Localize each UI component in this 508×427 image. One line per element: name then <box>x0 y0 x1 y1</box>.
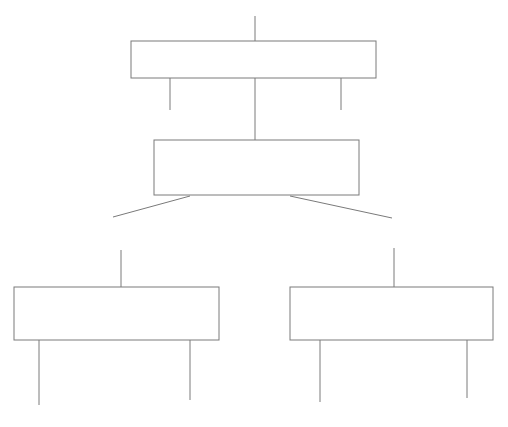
node-leaf-left[interactable] <box>14 287 219 340</box>
node-layer <box>14 41 493 340</box>
diagram-canvas <box>0 0 508 427</box>
hierarchy-diagram <box>0 0 508 427</box>
branch-second-right <box>290 196 392 218</box>
node-leaf-left-rect[interactable] <box>14 287 219 340</box>
node-second-rect[interactable] <box>154 140 359 195</box>
node-root[interactable] <box>131 41 376 78</box>
node-root-rect[interactable] <box>131 41 376 78</box>
node-leaf-right-rect[interactable] <box>290 287 493 340</box>
branch-second-left <box>113 196 190 217</box>
node-second[interactable] <box>154 140 359 195</box>
node-leaf-right[interactable] <box>290 287 493 340</box>
